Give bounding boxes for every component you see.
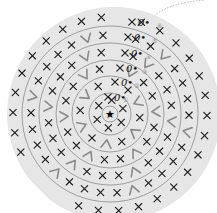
svg-text:0•: 0•	[121, 77, 133, 88]
svg-text:③: ③	[142, 68, 147, 75]
svg-text:④: ④	[146, 53, 151, 60]
svg-text:0•: 0•	[138, 17, 150, 28]
svg-text:0•: 0•	[134, 32, 146, 43]
svg-text:0•: 0•	[131, 48, 143, 59]
svg-text:②: ②	[134, 82, 139, 89]
crochet-chart: ★ 0•0•0•0•0•0•①②③④⑤⑥	[0, 0, 217, 213]
svg-text:①: ①	[123, 96, 128, 103]
magic-ring-star-icon: ★	[105, 108, 115, 121]
svg-text:⑥: ⑥	[157, 22, 162, 29]
svg-text:0•: 0•	[126, 63, 138, 74]
svg-text:⑤: ⑤	[152, 37, 157, 44]
